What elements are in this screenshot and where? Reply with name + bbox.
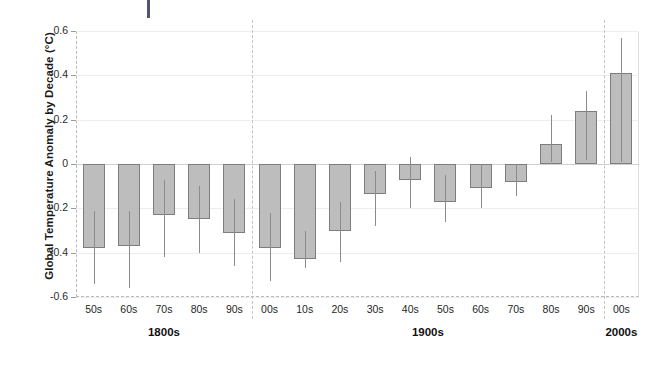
error-bar [164, 180, 165, 258]
temperature-anomaly-bar-chart: Global Temperature Anomaly by Decade (°C… [0, 0, 672, 373]
error-bar [445, 175, 446, 222]
error-bar [586, 91, 587, 160]
gridline [76, 297, 639, 298]
error-bar [621, 38, 622, 162]
plot-area [76, 31, 639, 297]
y-tick-label: 0 [30, 157, 68, 169]
error-bar [551, 115, 552, 162]
x-tick-label: 60s [461, 303, 501, 315]
x-group-label: 1900s [383, 326, 473, 338]
y-tick-mark [71, 120, 76, 121]
x-group-label: 2000s [576, 326, 666, 338]
x-tick-label: 20s [320, 303, 360, 315]
y-tick-mark [71, 31, 76, 32]
x-tick-label: 80s [179, 303, 219, 315]
x-tick-label: 50s [74, 303, 114, 315]
group-separator [252, 20, 253, 319]
top-blue-tick-mark [147, 0, 150, 18]
y-tick-label: -0.6 [30, 290, 68, 302]
gridline [76, 31, 639, 32]
gridline [76, 253, 639, 254]
error-bar [481, 164, 482, 208]
y-tick-mark [71, 253, 76, 254]
x-tick-label: 40s [390, 303, 430, 315]
error-bar [340, 202, 341, 262]
error-bar [94, 211, 95, 284]
x-tick-label: 50s [425, 303, 465, 315]
y-tick-label: -0.2 [30, 201, 68, 213]
error-bar [305, 231, 306, 269]
x-tick-label: 00s [601, 303, 641, 315]
y-tick-mark [71, 75, 76, 76]
error-bar [199, 186, 200, 253]
x-tick-label: 00s [250, 303, 290, 315]
error-bar [129, 211, 130, 289]
x-tick-label: 90s [214, 303, 254, 315]
error-bar [270, 213, 271, 282]
group-separator [604, 20, 605, 319]
error-bar [234, 199, 235, 266]
y-tick-label: 0.6 [30, 24, 68, 36]
error-bar [375, 171, 376, 226]
x-tick-label: 90s [566, 303, 606, 315]
gridline [76, 120, 639, 121]
y-tick-label: 0.4 [30, 68, 68, 80]
x-tick-label: 80s [531, 303, 571, 315]
x-tick-label: 10s [285, 303, 325, 315]
x-group-label: 1800s [119, 326, 209, 338]
gridline [76, 75, 639, 76]
x-tick-label: 60s [109, 303, 149, 315]
x-tick-label: 70s [144, 303, 184, 315]
error-bar [516, 164, 517, 196]
error-bar [410, 157, 411, 208]
y-tick-label: -0.4 [30, 246, 68, 258]
y-tick-label: 0.2 [30, 113, 68, 125]
x-tick-label: 30s [355, 303, 395, 315]
y-tick-mark [71, 297, 76, 298]
x-tick-label: 70s [496, 303, 536, 315]
y-tick-mark [71, 208, 76, 209]
